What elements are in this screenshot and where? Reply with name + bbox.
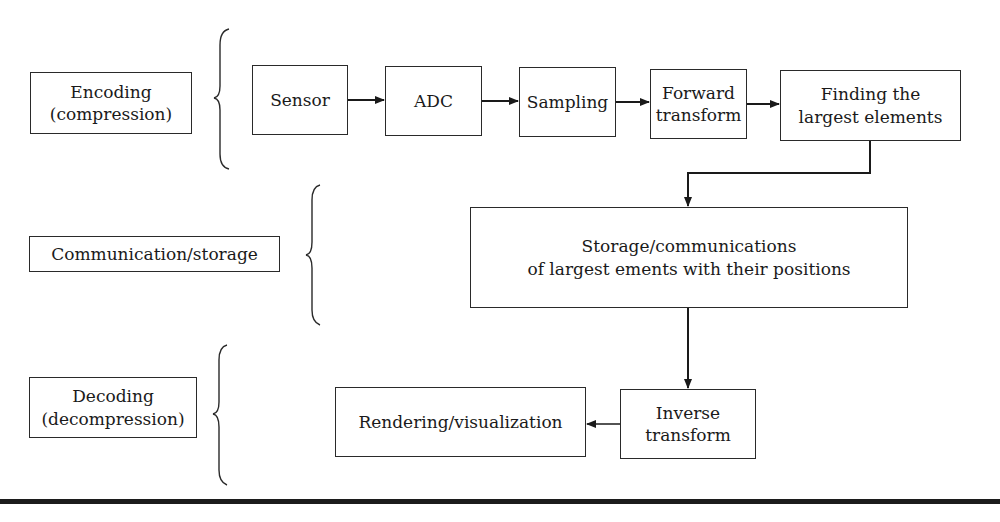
brace-decoding-icon bbox=[213, 345, 227, 485]
brace-communication-icon bbox=[306, 185, 320, 325]
rendering-visualization-label: Rendering/visualization bbox=[358, 411, 562, 433]
forward-transform-label: Forward transform bbox=[656, 82, 742, 126]
adc-label: ADC bbox=[414, 90, 453, 112]
stage-encoding-label: Encoding (compression) bbox=[50, 81, 172, 125]
finding-largest-elements-label: Finding the largest elements bbox=[799, 83, 943, 127]
sensor-label: Sensor bbox=[270, 89, 330, 111]
inverse-transform-block: Inverse transform bbox=[620, 389, 756, 459]
storage-communications-block: Storage/communications of largest ements… bbox=[470, 207, 908, 308]
finding-largest-elements-block: Finding the largest elements bbox=[780, 70, 961, 141]
sampling-label: Sampling bbox=[527, 91, 609, 113]
adc-block: ADC bbox=[385, 66, 482, 136]
stage-encoding-box: Encoding (compression) bbox=[30, 72, 192, 134]
stage-decoding-box: Decoding (decompression) bbox=[29, 377, 197, 438]
stage-communication-box: Communication/storage bbox=[29, 236, 280, 272]
stage-communication-label: Communication/storage bbox=[51, 243, 258, 265]
rendering-visualization-block: Rendering/visualization bbox=[335, 387, 586, 457]
sampling-block: Sampling bbox=[519, 67, 616, 137]
stage-decoding-label: Decoding (decompression) bbox=[41, 385, 184, 429]
inverse-transform-label: Inverse transform bbox=[645, 402, 731, 446]
brace-encoding-icon bbox=[214, 29, 229, 169]
bottom-rule-divider bbox=[0, 499, 1000, 504]
forward-transform-block: Forward transform bbox=[650, 69, 747, 139]
sensor-block: Sensor bbox=[252, 65, 348, 135]
storage-communications-label: Storage/communications of largest ements… bbox=[527, 235, 850, 279]
arrow-finding-to-storage bbox=[688, 141, 870, 206]
